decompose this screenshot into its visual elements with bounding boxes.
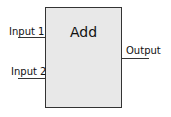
input-2-line[interactable] xyxy=(18,78,45,79)
input-1-label: Input 1 xyxy=(9,27,44,37)
add-block[interactable]: Add xyxy=(45,7,122,108)
input-2-label: Input 2 xyxy=(11,67,46,77)
output-line[interactable] xyxy=(122,58,149,59)
block-title: Add xyxy=(46,24,121,40)
input-1-line[interactable] xyxy=(18,37,45,38)
output-label: Output xyxy=(126,46,161,56)
